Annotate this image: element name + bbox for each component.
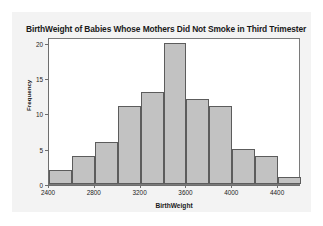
y-axis-tick [45,114,48,115]
y-axis-tick [45,44,48,45]
histogram-bar [255,156,278,184]
x-axis-tick [140,185,141,188]
y-axis-tick [45,79,48,80]
chart-title: BirthWeight of Babies Whose Mothers Did … [26,24,306,34]
x-axis-tick-label: 2400 [41,189,55,196]
x-axis-tick [94,185,95,188]
x-axis-tick-label: 3200 [133,189,147,196]
y-axis-tick [45,150,48,151]
screenshot-canvas: BirthWeight of Babies Whose Mothers Did … [0,0,323,226]
x-axis-tick-label: 4400 [270,189,284,196]
histogram-bar [141,92,164,184]
histogram-bar [164,43,187,184]
y-axis-tick-label: 20 [36,40,43,47]
y-axis-title: Frequency [25,80,32,111]
x-axis-title: BirthWeight [48,202,300,209]
plot-inner [49,39,299,184]
chart-panel: BirthWeight of Babies Whose Mothers Did … [12,12,311,212]
histogram-bar [186,99,209,184]
histogram-bars [49,39,299,184]
y-axis-tick-label: 15 [36,75,43,82]
x-axis-tick-label: 2800 [87,189,101,196]
x-axis [48,185,300,186]
histogram-bar [118,106,141,184]
histogram-bar [95,142,118,184]
x-axis-tick [277,185,278,188]
y-axis-tick-label: 5 [39,146,43,153]
x-axis-tick [231,185,232,188]
histogram-bar [72,156,95,184]
y-axis-tick-label: 0 [39,182,43,189]
x-axis-tick [185,185,186,188]
plot-area [48,38,300,185]
x-axis-tick-label: 4000 [224,189,238,196]
histogram-bar [232,149,255,184]
histogram-bar [209,106,232,184]
y-axis [48,38,49,185]
histogram-bar [49,170,72,184]
y-axis-tick-label: 10 [36,111,43,118]
x-axis-tick-label: 3600 [178,189,192,196]
x-axis-tick [48,185,49,188]
histogram-bar [278,177,301,184]
